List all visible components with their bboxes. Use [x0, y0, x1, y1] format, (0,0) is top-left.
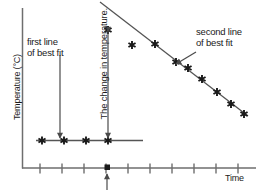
change-in-temperature-label: The change in temperature. [99, 8, 110, 120]
second-line-annotation-arrow [176, 52, 196, 64]
second-line-of-best-fit [100, 2, 248, 116]
second-line-of-best-fit-label: second line of best fit [196, 27, 242, 48]
first-line-of-best-fit-label: first line of best fit [27, 37, 63, 58]
data-point-star [213, 88, 220, 96]
x-axis-event-marker-group [105, 165, 111, 191]
y-axis-label: Temperature (°C) [12, 37, 22, 137]
x-axis-event-marker [105, 165, 111, 171]
data-point-star [128, 41, 135, 49]
temperature-vs-time-graph: first line of best fit The change in tem… [0, 0, 258, 193]
x-axis-label: Time [225, 173, 244, 183]
